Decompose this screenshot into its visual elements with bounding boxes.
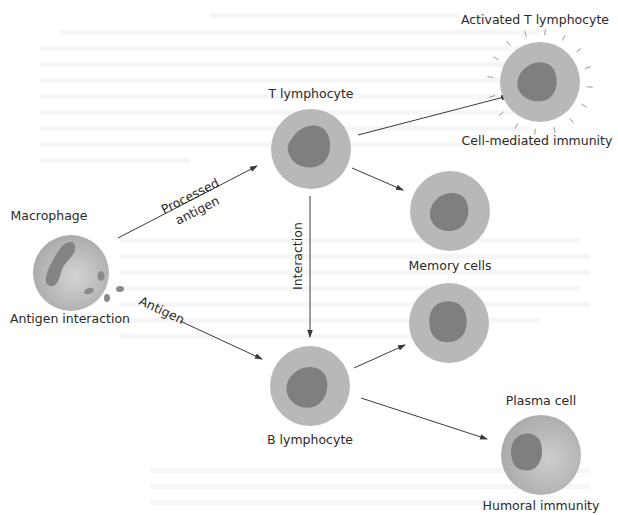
activation-spike (545, 29, 546, 35)
plasma-cell: Plasma cell Humoral immunity (483, 393, 600, 513)
macrophage-caption: Antigen interaction (10, 311, 130, 326)
b-lymphocyte-cell: B lymphocyte (267, 346, 353, 447)
activation-spike (487, 77, 493, 78)
macrophage-label: Macrophage (11, 208, 88, 223)
plasma-cell-nucleus (511, 433, 542, 470)
macrophage-cell: Macrophage Antigen interaction (10, 208, 130, 326)
memory-cells-caption: Memory cells (409, 258, 492, 273)
arrow-t-to-memory (352, 168, 403, 190)
plasma-cell-label: Plasma cell (506, 393, 577, 408)
arrow-b-to-memory (354, 345, 405, 368)
antigen-particle (104, 294, 110, 302)
memory-b-cell (409, 283, 489, 363)
activation-spike (585, 67, 591, 69)
activated-t-lymphocyte-label: Activated T lymphocyte (461, 12, 609, 27)
activation-spike (581, 104, 586, 107)
interaction-arrow-label: Interaction (290, 222, 305, 290)
activation-spike (576, 48, 581, 52)
memory-t-cell: Memory cells (409, 171, 492, 273)
activation-spike (506, 41, 510, 46)
memory-b-nucleus (429, 301, 466, 342)
activation-spike (554, 127, 556, 133)
macrophage-vesicle (98, 271, 105, 281)
t-lymphocyte-cell: T lymphocyte (267, 86, 353, 189)
t-lymphocyte-label: T lymphocyte (267, 86, 353, 101)
activated-t-caption: Cell-mediated immunity (462, 133, 613, 148)
plasma-cell-caption: Humoral immunity (483, 498, 600, 513)
immune-response-diagram: Processed antigen Antigen Interaction Ma… (0, 0, 618, 515)
activation-spike (570, 118, 574, 123)
activation-spike (493, 57, 498, 60)
activation-spike (562, 35, 565, 40)
arrow-b-to-plasma (361, 398, 487, 439)
arrow-macrophage-to-b (180, 321, 262, 359)
processed-antigen-label: Processed antigen (158, 175, 228, 231)
activation-spike (587, 87, 593, 88)
b-lymphocyte-caption: B lymphocyte (267, 432, 353, 447)
antigen-particle (116, 286, 124, 292)
